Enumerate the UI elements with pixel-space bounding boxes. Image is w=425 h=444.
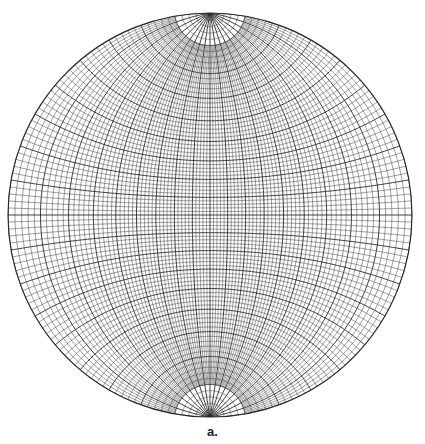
net-gridlines [8, 13, 412, 417]
wulff-net [0, 0, 425, 444]
figure-caption: a. [0, 424, 425, 439]
